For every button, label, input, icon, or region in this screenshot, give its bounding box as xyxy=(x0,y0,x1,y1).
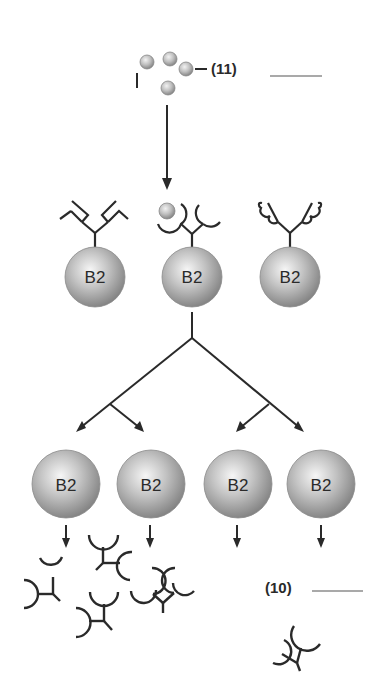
b-cell-label: B2 xyxy=(141,476,162,495)
b-cell-bottom-3: B2 xyxy=(204,450,272,518)
b-cell-top-3: B2 xyxy=(259,203,321,307)
b-cell-label: B2 xyxy=(85,268,106,287)
antigen-group: (11) xyxy=(137,52,322,95)
antigen-sphere xyxy=(161,81,175,95)
b-cell-label: B2 xyxy=(228,476,249,495)
clonal-selection-diagram: (11) B2 xyxy=(0,0,390,693)
selection-arrow xyxy=(162,105,172,190)
secretion-arrowheads xyxy=(62,538,325,548)
bound-antigen xyxy=(159,203,175,219)
b-cell-top-2: B2 xyxy=(158,203,222,307)
secretion-arrows xyxy=(66,525,321,540)
b-cell-label: B2 xyxy=(182,268,203,287)
b-cell-bottom-4: B2 xyxy=(287,450,355,518)
b-cell-top-1: B2 xyxy=(60,201,128,307)
b-cell-label: B2 xyxy=(280,268,301,287)
antigen-sphere xyxy=(140,55,154,69)
antigen-sphere xyxy=(179,62,193,76)
b-cell-bottom-1: B2 xyxy=(32,450,100,518)
wavy-receptor-icon xyxy=(259,203,321,247)
angular-receptor-icon xyxy=(60,201,128,247)
b-cell-label: B2 xyxy=(56,476,77,495)
antigen-label: (11) xyxy=(211,60,237,77)
b-cell-bottom-2: B2 xyxy=(117,450,185,518)
antibody-icon xyxy=(24,535,320,671)
proliferation-branch xyxy=(80,312,300,428)
antigen-sphere xyxy=(163,52,177,66)
branch-arrowheads xyxy=(76,421,304,432)
b-cell-label: B2 xyxy=(311,476,332,495)
antibody-label: (10) xyxy=(265,579,292,596)
